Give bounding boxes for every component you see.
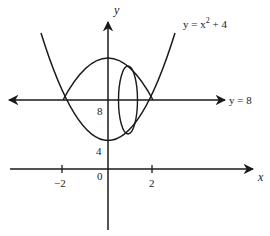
y-axis-label: y	[113, 3, 120, 17]
tick-label-8: 8	[97, 105, 103, 117]
curve-equation-label: y = x2 + 4	[183, 16, 227, 30]
tick-label-2: 2	[149, 177, 155, 189]
tick-label-4: 4	[96, 145, 102, 157]
tick-label-neg2: −2	[54, 177, 66, 189]
diagram-canvas: y x y = x2 + 4 y = 8 8 4 −2 0 2	[0, 0, 270, 236]
x-axis-label: x	[257, 170, 264, 184]
line-y8-label: y = 8	[229, 94, 252, 106]
tick-label-0: 0	[97, 170, 103, 182]
